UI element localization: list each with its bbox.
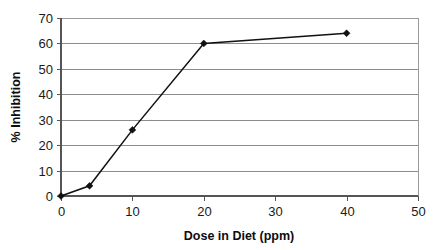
y-tick-label-0: 0: [46, 189, 53, 204]
y-tick-label-40: 40: [39, 87, 53, 102]
x-axis-tick-labels: 01020304050: [58, 204, 426, 219]
plot-area-background: [61, 18, 418, 196]
y-tick-label-10: 10: [39, 164, 53, 179]
x-axis-title: Dose in Diet (ppm): [184, 229, 294, 243]
x-tick-label-10: 10: [125, 204, 139, 219]
y-axis-title: % Inhibition: [9, 72, 23, 143]
x-tick-label-0: 0: [58, 204, 65, 219]
y-tick-label-70: 70: [39, 11, 53, 26]
y-tick-label-60: 60: [39, 36, 53, 51]
x-axis-tick-marks: [62, 196, 419, 201]
y-tick-label-30: 30: [39, 113, 53, 128]
y-tick-label-20: 20: [39, 138, 53, 153]
y-axis-tick-labels: 010203040506070: [39, 11, 53, 204]
x-tick-label-30: 30: [268, 204, 282, 219]
dose-response-line-chart: 010203040506070 01020304050 Dose in Diet…: [0, 0, 442, 250]
x-tick-label-20: 20: [197, 204, 211, 219]
x-tick-label-40: 40: [340, 204, 354, 219]
x-tick-label-50: 50: [411, 204, 425, 219]
chart-container: 010203040506070 01020304050 Dose in Diet…: [0, 0, 442, 250]
y-tick-label-50: 50: [39, 62, 53, 77]
